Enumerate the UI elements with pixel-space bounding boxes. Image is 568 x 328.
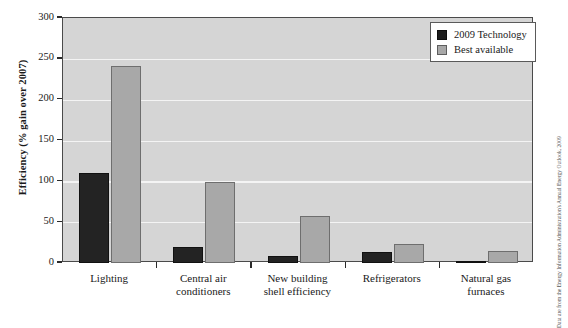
x-axis-category-label: Central airconditioners xyxy=(156,272,250,297)
y-axis-tick-label: 150 xyxy=(4,134,54,144)
x-axis-tick xyxy=(439,262,440,268)
x-axis-category-label-line: Lighting xyxy=(62,272,156,285)
legend-item: 2009 Technology xyxy=(437,27,527,42)
bar xyxy=(205,182,235,263)
x-axis-category-label-line: Central air xyxy=(156,272,250,285)
x-axis-tick xyxy=(250,262,251,268)
y-axis-tick-label: 0 xyxy=(4,257,54,267)
legend-item: Best available xyxy=(437,42,527,57)
x-axis-category-label-line: shell efficiency xyxy=(250,285,344,298)
legend-label: 2009 Technology xyxy=(454,29,527,40)
bar xyxy=(394,244,424,263)
x-axis-category-label-line: New building xyxy=(250,272,344,285)
bar xyxy=(300,216,330,263)
legend-swatch-best-available xyxy=(437,45,447,55)
bar xyxy=(173,247,203,263)
y-axis-tick-label: 200 xyxy=(4,93,54,103)
x-axis-category-label-line: Refrigerators xyxy=(345,272,439,285)
y-axis-title: Efficiency (% gain over 2007) xyxy=(17,18,28,238)
bar xyxy=(456,261,486,263)
legend-label: Best available xyxy=(454,44,513,55)
x-axis-category-label: New buildingshell efficiency xyxy=(250,272,344,297)
x-axis-tick xyxy=(345,262,346,268)
source-note: Data are from the Energy Information Adm… xyxy=(556,38,562,328)
x-axis-category-label: Lighting xyxy=(62,272,156,285)
y-axis-tick-label: 50 xyxy=(4,216,54,226)
chart-legend: 2009 Technology Best available xyxy=(430,22,536,62)
bar xyxy=(268,256,298,263)
bar xyxy=(488,251,518,263)
y-axis-tick-label: 100 xyxy=(4,175,54,185)
x-axis-category-label-line: conditioners xyxy=(156,285,250,298)
y-axis-tick-label: 300 xyxy=(4,12,54,22)
bar xyxy=(362,252,392,263)
x-axis-category-label: Refrigerators xyxy=(345,272,439,285)
x-axis-category-label: Natural gasfurnaces xyxy=(439,272,533,297)
x-axis-tick xyxy=(156,262,157,268)
x-axis-category-label-line: Natural gas xyxy=(439,272,533,285)
legend-swatch-2009-technology xyxy=(437,30,447,40)
bar xyxy=(79,173,109,263)
y-axis-tick-label: 250 xyxy=(4,52,54,62)
x-axis-category-label-line: furnaces xyxy=(439,285,533,298)
bar xyxy=(111,66,141,263)
